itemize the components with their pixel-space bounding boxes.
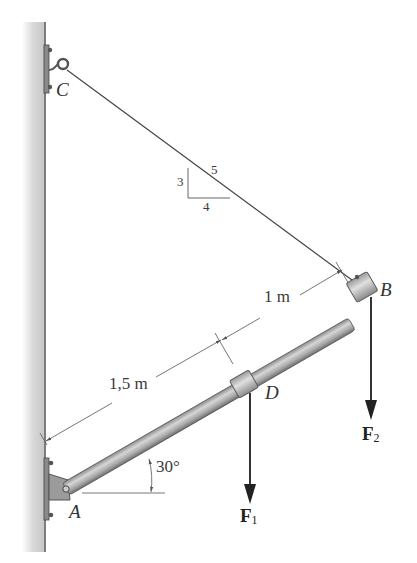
dimension-ad: 1,5 m (109, 375, 148, 392)
slope-triangle-icon (188, 168, 230, 198)
force-label-f1: F1 (240, 506, 258, 525)
label-c: C (56, 80, 69, 99)
dimension-db: 1 m (264, 288, 290, 305)
force-label-f2: F2 (362, 424, 380, 443)
wall (22, 22, 46, 552)
collar-b (346, 271, 378, 302)
label-a: A (69, 502, 81, 521)
angle-label: 30° (156, 458, 180, 475)
force-arrow-f2 (365, 297, 377, 420)
label-d: D (265, 383, 279, 402)
label-b: B (380, 280, 392, 299)
force-arrow-f1 (244, 393, 256, 504)
pin-a-icon (63, 486, 69, 492)
slope-hyp: 5 (211, 163, 218, 176)
slope-rise: 3 (177, 175, 184, 188)
slope-run: 4 (203, 200, 210, 213)
